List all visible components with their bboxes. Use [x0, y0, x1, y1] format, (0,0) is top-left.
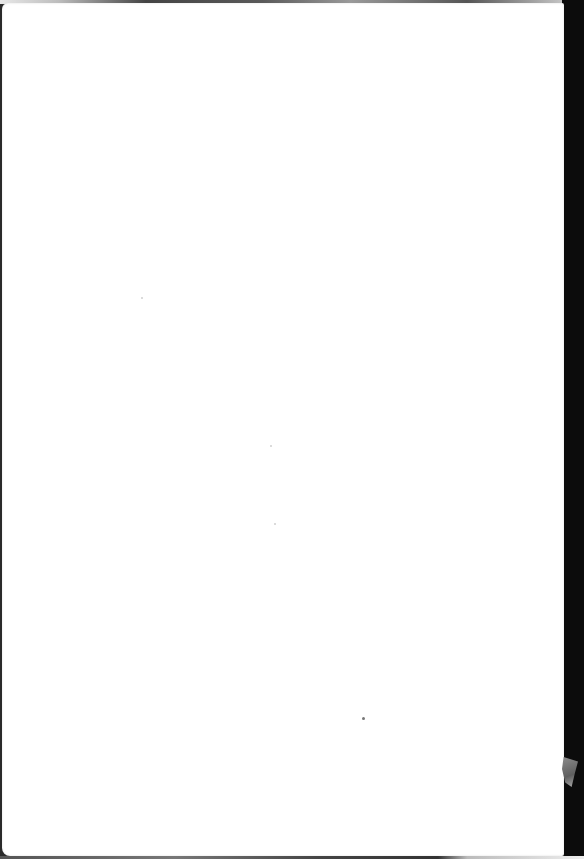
- dust-speck: [141, 297, 143, 299]
- dust-speck: [274, 523, 276, 525]
- scan-background: [562, 0, 584, 859]
- dust-speck: [362, 717, 365, 720]
- blank-paper-page: [2, 3, 564, 856]
- dust-speck: [270, 445, 272, 447]
